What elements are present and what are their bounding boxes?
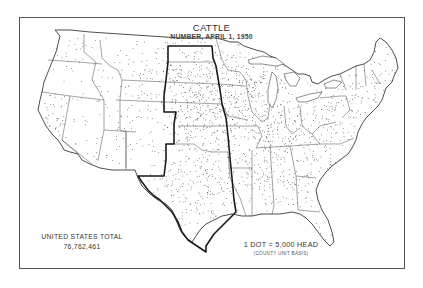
state-boundaries <box>42 34 380 216</box>
map-subtitle: NUMBER, APRIL 1, 1950 <box>0 33 423 40</box>
legend-basis: (COUNTY UNIT BASIS) <box>236 251 326 256</box>
us-outline <box>38 30 398 246</box>
legend-scale: 1 DOT = 5,000 HEAD <box>236 240 326 249</box>
map-legend: 1 DOT = 5,000 HEAD (COUNTY UNIT BASIS) <box>236 240 326 256</box>
us-total-value: 76,762,461 <box>32 242 132 252</box>
us-total-label: UNITED STATES TOTAL <box>32 232 132 242</box>
us-total-block: UNITED STATES TOTAL 76,762,461 <box>32 232 132 252</box>
map-title: CATTLE <box>0 22 423 33</box>
